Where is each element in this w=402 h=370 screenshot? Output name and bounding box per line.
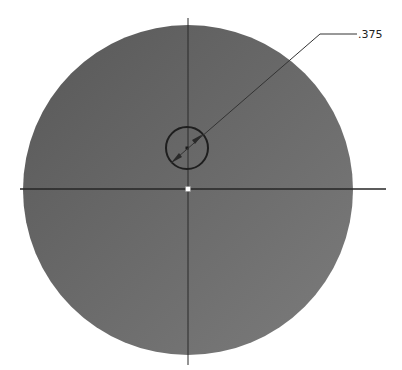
diameter-dimension-label[interactable]: .375 — [358, 28, 383, 41]
origin-point-marker[interactable] — [186, 187, 191, 192]
cad-drawing-canvas: .375 — [0, 0, 402, 370]
